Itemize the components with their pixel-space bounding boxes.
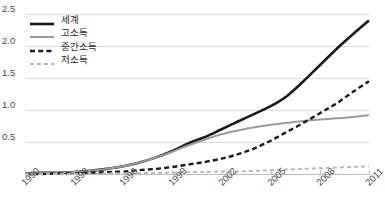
legend-label: 저소득 — [61, 55, 88, 65]
legend-swatch-icon — [30, 28, 54, 38]
legend-item[interactable]: 저소득 — [30, 54, 97, 68]
legend-label: 고소득 — [61, 28, 88, 38]
legend-label: 세계 — [61, 15, 79, 25]
legend-swatch-icon — [30, 55, 54, 65]
series-line — [25, 81, 369, 174]
legend-swatch-icon — [30, 15, 54, 25]
series-line — [25, 115, 369, 173]
legend-swatch-icon — [30, 42, 54, 52]
legend-item[interactable]: 중간소득 — [30, 40, 97, 54]
legend-label: 중간소득 — [61, 42, 97, 52]
chart-legend: 세계고소득중간소득저소득 — [30, 13, 97, 67]
legend-item[interactable]: 고소득 — [30, 27, 97, 41]
legend-item[interactable]: 세계 — [30, 13, 97, 27]
